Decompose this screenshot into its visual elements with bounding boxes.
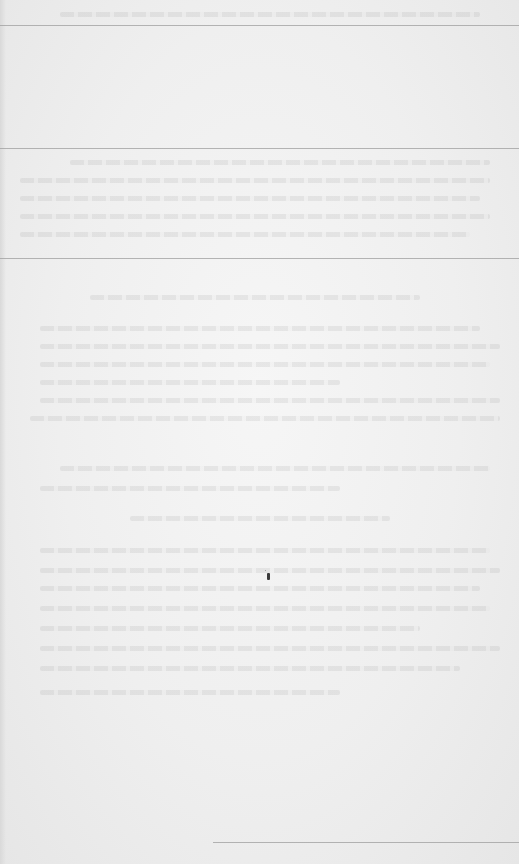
top-rule: [0, 25, 519, 26]
footnote-rule: [213, 842, 519, 843]
section-rule-2: [0, 258, 519, 259]
scan-speck: [267, 573, 270, 580]
scanned-page: [0, 0, 519, 864]
section-rule-1: [0, 148, 519, 149]
page-edge-shadow: [0, 0, 6, 864]
scan-speck-small: [265, 570, 266, 571]
